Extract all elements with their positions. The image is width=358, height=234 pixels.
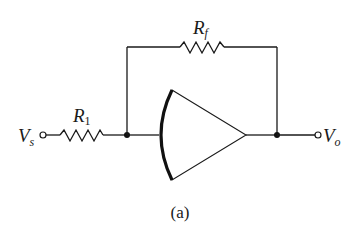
label-r1-subscript: 1 bbox=[85, 114, 91, 128]
resistor-r1 bbox=[60, 130, 103, 141]
amplifier-body bbox=[161, 90, 246, 180]
resistor-rf bbox=[180, 42, 224, 53]
label-r1-symbol: R bbox=[72, 105, 85, 126]
output-terminal bbox=[315, 132, 321, 138]
label-rf-subscript: f bbox=[205, 26, 210, 40]
circuit-diagram: Vs Vo R1 Rf (a) bbox=[0, 0, 358, 234]
label-vo: Vo bbox=[323, 125, 341, 149]
figure-caption: (a) bbox=[171, 203, 190, 222]
label-vs-subscript: s bbox=[30, 135, 35, 149]
label-rf-symbol: R bbox=[192, 17, 205, 38]
label-rf: Rf bbox=[192, 17, 210, 40]
label-vs: Vs bbox=[18, 125, 35, 149]
input-terminal bbox=[40, 132, 46, 138]
label-r1: R1 bbox=[72, 105, 91, 128]
label-vo-subscript: o bbox=[335, 135, 341, 149]
